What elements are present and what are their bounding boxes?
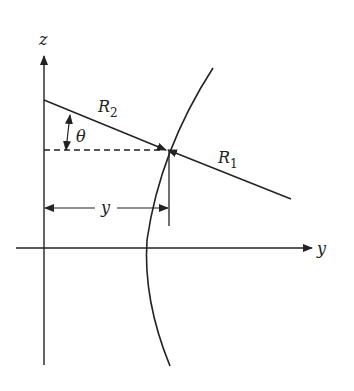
y-axis-label: y — [316, 239, 327, 258]
surface-arc — [146, 68, 213, 366]
r2-label: R2 — [97, 97, 118, 120]
r1-label: R1 — [217, 148, 238, 171]
theta-arrow-down — [66, 132, 68, 150]
z-axis-label: z — [38, 30, 48, 49]
distance-label: y — [100, 198, 111, 217]
theta-label: θ — [76, 127, 86, 146]
geometry-diagram: z y R2 R1 θ y — [0, 0, 354, 391]
theta-arrow-up — [68, 115, 70, 132]
